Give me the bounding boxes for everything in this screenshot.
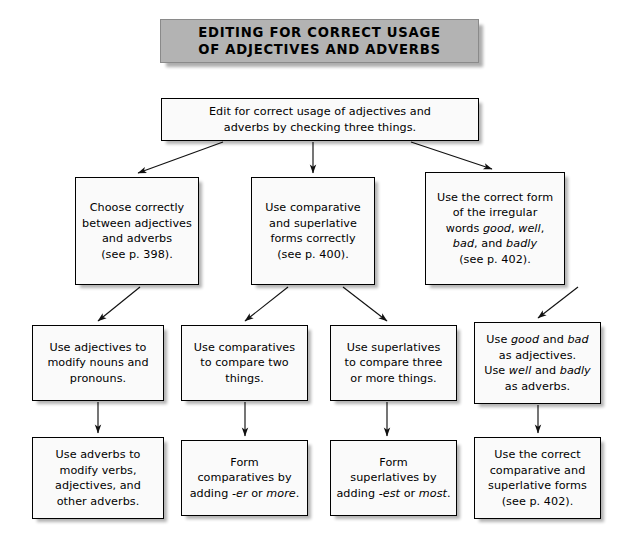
node-detail3-label: Use superlatives to compare three or mor… [331,340,456,387]
node-detail2-label: Use comparatives to compare two things. [182,340,307,387]
node-branch2-label: Use comparative and superlative forms co… [252,200,374,262]
node-branch3-label: Use the correct formof the irregularword… [426,190,564,268]
node-branch1-label: Choose correctly between adjectives and … [76,200,198,262]
node-detail1: Use adjectives to modify nouns and prono… [32,325,164,401]
connector-intro-to-branch1 [138,142,223,173]
node-detail2: Use comparatives to compare two things. [181,325,308,401]
connector-branch1-to-detail1 [98,287,140,321]
node-result4-label: Use the correct comparative and superlat… [475,447,600,509]
node-result1-label: Use adverbs to modify verbs, adjectives,… [33,447,163,509]
node-detail1-label: Use adjectives to modify nouns and prono… [33,340,163,387]
node-detail4: Use good and badas adjectives.Use well a… [474,322,601,404]
node-result3-label: Formsuperlatives byadding -est or most. [331,455,456,502]
flowchart-canvas: EDITING FOR CORRECT USAGE OF ADJECTIVES … [0,0,639,540]
node-branch2: Use comparative and superlative forms co… [251,177,375,285]
diagram-title: EDITING FOR CORRECT USAGE OF ADJECTIVES … [198,24,441,58]
connector-intro-to-branch3 [411,142,492,169]
diagram-title-banner: EDITING FOR CORRECT USAGE OF ADJECTIVES … [160,19,479,63]
node-result1: Use adverbs to modify verbs, adjectives,… [32,437,164,519]
node-branch1: Choose correctly between adjectives and … [75,177,199,285]
connector-branch2-to-detail2 [245,287,288,321]
connector-branch3-to-detail4 [538,287,578,318]
node-intro-label: Edit for correct usage of adjectives and… [162,104,478,136]
node-result4: Use the correct comparative and superlat… [474,437,601,519]
node-intro: Edit for correct usage of adjectives and… [161,98,479,141]
node-branch3: Use the correct formof the irregularword… [425,172,565,285]
node-result2: Formcomparatives byadding -er or more. [181,440,308,516]
node-detail4-label: Use good and badas adjectives.Use well a… [475,332,600,394]
connector-branch2-to-detail3 [343,287,387,321]
node-detail3: Use superlatives to compare three or mor… [330,325,457,401]
node-result2-label: Formcomparatives byadding -er or more. [182,455,307,502]
node-result3: Formsuperlatives byadding -est or most. [330,440,457,516]
